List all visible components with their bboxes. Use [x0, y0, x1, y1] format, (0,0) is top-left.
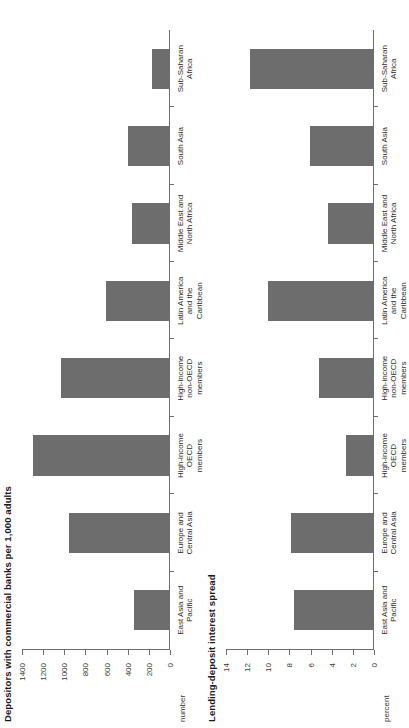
y-axis-tick-label: 14 [222, 663, 231, 672]
x-axis-tick [373, 184, 378, 185]
bar [128, 126, 169, 166]
y-axis-tick-label: 6 [306, 663, 315, 667]
chart-panel-depositors: Depositors with commercial banks per 1,0… [0, 0, 204, 728]
bar-group: Europe and Central Asia [22, 494, 169, 571]
y-axis-tick-label: 1400 [18, 663, 27, 681]
category-label: Sub-Saharan Africa [380, 24, 399, 114]
x-axis-tick [169, 339, 174, 340]
bar-group: High-income OECD members [226, 417, 373, 494]
bar [328, 203, 373, 243]
category-label: Latin America and the Caribbean [380, 256, 408, 346]
bar-group: East Asia and Pacific [226, 572, 373, 649]
plot-area-depositors: 0200400600800100012001400 East Asia and … [22, 30, 170, 650]
y-axis-tick-label: 0 [370, 663, 379, 667]
y-axis-tick: 6 [311, 650, 312, 655]
y-axis-tick-label: 1000 [60, 663, 69, 681]
bar-group: Sub-Saharan Africa [226, 30, 373, 107]
y-axis-tick: 4 [332, 650, 333, 655]
y-axis-tick: 10 [268, 650, 269, 655]
category-label: Middle East and North Africa [380, 178, 399, 268]
x-axis-tick [169, 261, 174, 262]
bar [294, 590, 373, 630]
y-axis-tick: 14 [226, 650, 227, 655]
category-label: Latin America and the Caribbean [176, 256, 204, 346]
x-axis-tick [373, 416, 378, 417]
y-axis-tick: 8 [289, 650, 290, 655]
y-axis-line [22, 649, 170, 650]
category-label: East Asia and Pacific [380, 565, 399, 655]
bar-group: Sub-Saharan Africa [22, 30, 169, 107]
category-label: South Asia [176, 101, 185, 191]
x-axis-tick [169, 571, 174, 572]
y-axis-tick: 400 [128, 650, 129, 655]
y-axis-tick: 600 [107, 650, 108, 655]
y-axis-tick-label: 4 [327, 663, 336, 667]
y-axis-tick-label: 200 [144, 663, 153, 676]
bar-group: South Asia [226, 107, 373, 184]
bar-group: South Asia [22, 107, 169, 184]
y-axis-tick: 12 [247, 650, 248, 655]
bar-group: Middle East and North Africa [226, 185, 373, 262]
y-axis-tick-label: 2 [348, 663, 357, 667]
bar-group: East Asia and Pacific [22, 572, 169, 649]
bar [250, 49, 373, 89]
bar [69, 513, 169, 553]
category-label: Europe and Central Asia [380, 488, 399, 578]
category-label: Europe and Central Asia [176, 488, 195, 578]
chart-panel-spread: Lending-deposit interest spread percent … [204, 0, 408, 728]
y-axis-tick-label: 10 [264, 663, 273, 672]
y-axis-tick: 0 [170, 650, 171, 655]
y-axis-tick: 2 [353, 650, 354, 655]
x-axis-tick [373, 493, 378, 494]
x-axis-tick [169, 493, 174, 494]
chart-title-depositors: Depositors with commercial banks per 1,0… [2, 486, 13, 722]
bar [61, 358, 169, 398]
y-axis-unit-percent: percent [382, 695, 391, 722]
x-axis-tick [373, 571, 378, 572]
x-axis-tick [169, 416, 174, 417]
bar-group: Europe and Central Asia [226, 494, 373, 571]
y-axis-tick-label: 1200 [39, 663, 48, 681]
x-axis-line [373, 30, 374, 650]
chart-title-spread: Lending-deposit interest spread [206, 574, 217, 722]
bar-group: Latin America and the Caribbean [22, 262, 169, 339]
bar-group: High-income OECD members [22, 417, 169, 494]
y-axis-tick: 1000 [64, 650, 65, 655]
bars-spread: East Asia and PacificEurope and Central … [226, 30, 373, 649]
bar-group: High-income non-OECD members [22, 340, 169, 417]
y-axis-tick: 800 [85, 650, 86, 655]
y-axis-tick-label: 12 [243, 663, 252, 672]
bar [310, 126, 373, 166]
bar [268, 281, 373, 321]
y-axis-tick: 1400 [22, 650, 23, 655]
bars-depositors: East Asia and PacificEurope and Central … [22, 30, 169, 649]
y-axis-tick: 200 [149, 650, 150, 655]
y-axis-unit-number: number [178, 695, 187, 722]
bar [291, 513, 373, 553]
x-axis-tick [169, 184, 174, 185]
category-label: High-income OECD members [176, 411, 204, 501]
charts-container: Depositors with commercial banks per 1,0… [0, 0, 409, 728]
x-axis-tick [373, 106, 378, 107]
bar-group: High-income non-OECD members [226, 340, 373, 417]
y-axis-tick-label: 600 [102, 663, 111, 676]
category-label: East Asia and Pacific [176, 565, 195, 655]
y-axis-tick: 1200 [43, 650, 44, 655]
bar [346, 435, 373, 475]
x-axis-tick [373, 339, 378, 340]
x-axis-tick [373, 261, 378, 262]
category-label: Sub-Saharan Africa [176, 24, 195, 114]
category-label: High-income non-OECD members [380, 333, 408, 423]
y-axis-tick-label: 400 [123, 663, 132, 676]
y-axis-tick: 0 [374, 650, 375, 655]
bar [319, 358, 373, 398]
category-label: High-income OECD members [380, 411, 408, 501]
bar-group: Middle East and North Africa [22, 185, 169, 262]
y-axis-tick-label: 800 [81, 663, 90, 676]
category-label: South Asia [380, 101, 389, 191]
bar [132, 203, 169, 243]
y-axis-tick-label: 0 [166, 663, 175, 667]
plot-area-spread: 02468101214 East Asia and PacificEurope … [226, 30, 374, 650]
x-axis-tick [169, 106, 174, 107]
bar [33, 435, 169, 475]
